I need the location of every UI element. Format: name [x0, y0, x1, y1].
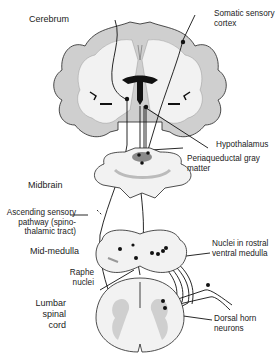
label-nuclei-line2: ventral medulla [212, 249, 268, 259]
label-midbrain: Midbrain [28, 180, 63, 191]
medulla-section [96, 230, 187, 272]
label-ascending-sensory-pathway: Ascending sensory pathway (spino- thalam… [2, 208, 76, 237]
label-ascending-line3: thalamic tract) [2, 227, 76, 237]
label-mid-medulla: Mid-medulla [30, 246, 79, 257]
label-ascending-line1: Ascending sensory [2, 208, 76, 218]
label-dorsal-horn-neurons: Dorsal horn neurons [214, 314, 256, 333]
label-somatic-line1: Somatic sensory [214, 9, 275, 19]
label-dorsal-line1: Dorsal horn [214, 314, 256, 324]
label-pag-line1: Periaqueductal gray [187, 154, 260, 164]
label-raphe-nuclei: Raphe nuclei [60, 268, 94, 287]
label-lumbar-spinal-cord: Lumbar spinal cord [20, 298, 66, 331]
label-somatic-sensory-cortex: Somatic sensory cortex [214, 9, 275, 28]
label-raphe-line2: nuclei [60, 278, 94, 288]
label-raphe-line1: Raphe [60, 268, 94, 278]
label-nuclei-line1: Nuclei in rostral [212, 239, 268, 249]
label-pag-line2: matter [187, 164, 260, 174]
label-lumbar-line1: Lumbar [20, 298, 66, 309]
label-periaqueductal-gray: Periaqueductal gray matter [187, 154, 260, 173]
midbrain-section [94, 148, 191, 198]
label-hypothalamus: Hypothalamus [216, 140, 268, 150]
label-somatic-line2: cortex [214, 19, 275, 29]
label-nuclei-rostral-ventral-medulla: Nuclei in rostral ventral medulla [212, 239, 268, 258]
label-ascending-line2: pathway (spino- [2, 218, 76, 228]
label-cerebrum: Cerebrum [29, 14, 69, 25]
label-lumbar-line3: cord [20, 320, 66, 331]
label-lumbar-line2: spinal [20, 309, 66, 320]
label-dorsal-line2: neurons [214, 324, 256, 334]
